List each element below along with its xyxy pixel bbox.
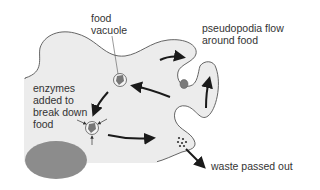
label-waste: waste passed out [211, 160, 293, 172]
food-vacuole [114, 74, 127, 87]
food-particle [180, 80, 188, 89]
arrow-waste-out [186, 149, 203, 166]
label-enzymes: enzymes added to break down food [33, 82, 87, 130]
nucleus [25, 141, 87, 179]
label-pseudopodia: pseudopodia flow around food [202, 22, 284, 46]
label-food-vacuole: food vacuole [91, 12, 127, 36]
